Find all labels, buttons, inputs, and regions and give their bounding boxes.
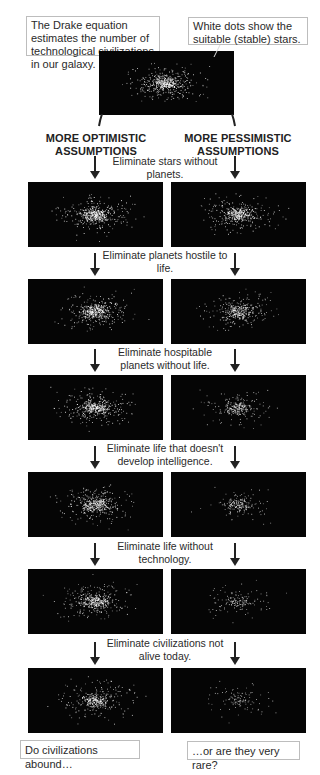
star-dot <box>234 300 235 301</box>
star-dot <box>100 324 101 325</box>
star-dot <box>179 87 180 88</box>
star-dot <box>233 215 234 216</box>
star-dot <box>239 693 240 694</box>
star-dot <box>246 505 247 506</box>
star-dot <box>226 197 227 198</box>
star-dot <box>106 611 107 612</box>
star-dot <box>79 615 80 616</box>
star-dot <box>230 322 231 323</box>
star-dot <box>78 603 79 604</box>
star-dot <box>253 494 254 495</box>
star-dot <box>266 595 267 596</box>
star-dot <box>250 603 251 604</box>
star-dot <box>145 85 146 86</box>
star-dot <box>79 316 80 317</box>
star-dot <box>123 315 124 316</box>
star-dot <box>248 323 249 324</box>
star-dot <box>91 305 92 306</box>
star-dot <box>84 610 85 611</box>
star-dot <box>237 606 238 607</box>
star-dot <box>185 76 186 77</box>
star-dot <box>243 310 244 311</box>
star-dot <box>149 75 150 76</box>
star-dot <box>247 418 248 419</box>
star-dot <box>56 413 57 414</box>
star-dot <box>178 80 179 81</box>
star-dot <box>276 712 277 713</box>
star-dot <box>225 410 226 411</box>
star-dot <box>177 80 178 81</box>
star-dot <box>162 89 163 90</box>
star-dot <box>240 312 241 313</box>
star-dot <box>216 205 217 206</box>
star-dot <box>109 316 110 317</box>
star-dot <box>242 409 243 410</box>
star-dot <box>153 81 154 82</box>
star-dot <box>237 303 238 304</box>
star-dot <box>245 709 246 710</box>
star-dot <box>211 709 212 710</box>
star-dot <box>96 214 97 215</box>
star-dot <box>83 612 84 613</box>
star-dot <box>97 609 98 610</box>
galaxy-panel-all-stars <box>99 51 234 115</box>
star-dot <box>82 613 83 614</box>
star-dot <box>233 689 234 690</box>
star-dot <box>96 598 97 599</box>
star-dot <box>70 696 71 697</box>
star-dot <box>224 212 225 213</box>
star-dot <box>262 510 263 511</box>
star-dot <box>163 83 164 84</box>
star-dot <box>100 228 101 229</box>
star-dot <box>88 490 89 491</box>
star-dot <box>95 223 96 224</box>
star-dot <box>94 408 95 409</box>
star-dot <box>88 198 89 199</box>
star-dot <box>104 405 105 406</box>
star-dot <box>80 518 81 519</box>
star-dot <box>230 502 231 503</box>
star-dot <box>274 212 275 213</box>
star-dot <box>215 224 216 225</box>
star-dot <box>183 92 184 93</box>
star-dot <box>254 601 255 602</box>
star-dot <box>108 499 109 500</box>
star-dot <box>251 401 252 402</box>
star-dot <box>171 99 172 100</box>
star-dot <box>99 503 100 504</box>
star-dot <box>242 693 243 694</box>
star-dot <box>84 498 85 499</box>
star-dot <box>78 204 79 205</box>
star-dot <box>92 394 93 395</box>
star-dot <box>89 222 90 223</box>
star-dot <box>168 80 169 81</box>
star-dot <box>241 402 242 403</box>
star-dot <box>214 598 215 599</box>
star-dot <box>201 402 202 403</box>
star-dot <box>236 504 237 505</box>
star-dot <box>127 693 128 694</box>
star-dot <box>95 315 96 316</box>
star-dot <box>167 75 168 76</box>
star-dot <box>260 601 261 602</box>
star-dot <box>89 195 90 196</box>
star-dot <box>266 508 267 509</box>
star-dot <box>129 496 130 497</box>
star-dot <box>108 400 109 401</box>
star-dot <box>105 698 106 699</box>
star-dot <box>90 308 91 309</box>
star-dot <box>89 317 90 318</box>
star-dot <box>87 221 88 222</box>
star-dot <box>251 211 252 212</box>
star-dot <box>96 703 97 704</box>
star-dot <box>244 499 245 500</box>
star-dot <box>242 208 243 209</box>
star-dot <box>229 508 230 509</box>
star-dot <box>111 508 112 509</box>
star-dot <box>96 412 97 413</box>
star-dot <box>215 403 216 404</box>
star-dot <box>81 214 82 215</box>
star-dot <box>94 197 95 198</box>
star-dot <box>233 622 234 623</box>
star-dot <box>110 308 111 309</box>
